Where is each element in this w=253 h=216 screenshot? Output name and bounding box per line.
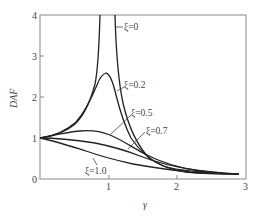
- curve-xi-0.7: [40, 138, 239, 174]
- y-tick-0: 0: [32, 174, 37, 185]
- x-tick-3: 3: [243, 181, 248, 192]
- y-tick-1: 1: [32, 133, 37, 144]
- curve-xi-0-left: [40, 15, 100, 138]
- y-axis-title: DAF: [8, 88, 19, 109]
- y-tick-3: 3: [32, 51, 37, 62]
- plot-frame: [40, 15, 246, 179]
- annotation-xi-1.0: ξ=1.0: [85, 166, 107, 177]
- x-tick-2: 2: [174, 181, 179, 192]
- y-axis-ticks: [40, 56, 44, 138]
- x-axis-title: γ: [143, 199, 148, 210]
- dynamic-amplification-chart: 4 3 2 1 0 1 2 3 γ DAF ξ=0 ξ=0.2 ξ=0.5 ξ=…: [0, 0, 253, 216]
- annotation-xi-0.2: ξ=0.2: [124, 80, 146, 91]
- annotation-xi-0.7: ξ=0.7: [146, 126, 168, 137]
- annotation-xi-0.5: ξ=0.5: [131, 108, 153, 119]
- annotation-xi-0: ξ=0: [124, 22, 139, 33]
- x-axis-ticks: [109, 175, 177, 179]
- curve-xi-0-right: [115, 15, 239, 174]
- curves: [40, 15, 239, 174]
- y-tick-2: 2: [32, 92, 37, 103]
- y-tick-4: 4: [32, 10, 37, 21]
- x-tick-1: 1: [106, 181, 111, 192]
